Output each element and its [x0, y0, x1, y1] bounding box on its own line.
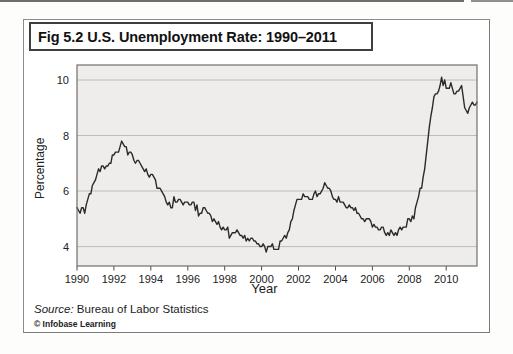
plot-area [77, 65, 477, 266]
source-note: Source: Bureau of Labor Statistics [34, 303, 209, 315]
figure-title-box: Fig 5.2 U.S. Unemployment Rate: 1990–201… [29, 22, 373, 51]
x-axis-title: Year [37, 281, 492, 296]
y-tick-label: 10 [57, 74, 69, 86]
y-tick-label: 8 [63, 130, 69, 142]
y-tick-label: 4 [63, 241, 69, 253]
page-edge-artifact-right [471, 0, 513, 2]
figure-page: Fig 5.2 U.S. Unemployment Rate: 1990–201… [0, 0, 513, 354]
figure-title: Fig 5.2 U.S. Unemployment Rate: 1990–201… [38, 29, 337, 45]
source-label: Source: [34, 303, 74, 315]
y-tick-label: 6 [63, 185, 69, 197]
copyright-note: © Infobase Learning [34, 319, 116, 329]
page-edge-artifact-left [0, 0, 464, 2]
figure-frame: Fig 5.2 U.S. Unemployment Rate: 1990–201… [23, 19, 490, 333]
source-text: Bureau of Labor Statistics [74, 303, 209, 315]
unemployment-line-chart: 4681019901992199419961998200020022004200… [37, 56, 492, 301]
